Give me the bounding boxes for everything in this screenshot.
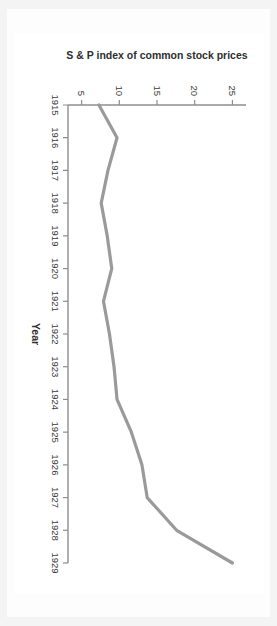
x-tick-label: 1922	[50, 323, 61, 344]
line-chart-svg: 1915191619171918191919201921192219231924…	[14, 33, 264, 593]
x-tick-label: 1928	[50, 520, 61, 541]
y-tick-label: 5	[76, 91, 87, 96]
x-tick-label: 1918	[50, 193, 61, 214]
y-tick-label: 10	[113, 85, 124, 96]
x-tick-label: 1915	[50, 94, 61, 115]
x-tick-label: 1920	[50, 258, 61, 279]
y-tick-label: 15	[151, 85, 162, 96]
y-tick-label: 20	[189, 85, 200, 96]
x-tick-label: 1926	[50, 454, 61, 475]
x-tick-label: 1925	[50, 422, 61, 443]
x-axis-tick-labels: 1915191619171918191919201921192219231924…	[50, 94, 61, 573]
x-tick-label: 1929	[50, 552, 61, 573]
x-tick-label: 1923	[50, 356, 61, 377]
x-tick-label: 1917	[50, 160, 61, 181]
chart-canvas: 1915191619171918191919201921192219231924…	[14, 33, 264, 593]
x-tick-label: 1916	[50, 127, 61, 148]
x-tick-label: 1924	[50, 389, 61, 410]
y-tick-label: 25	[227, 85, 238, 96]
y-axis-title: S & P index of common stock prices	[66, 49, 247, 61]
x-tick-label: 1919	[50, 225, 61, 246]
x-tick-label: 1921	[50, 291, 61, 312]
plot-background	[14, 33, 264, 593]
figure-container: 1915191619171918191919201921192219231924…	[0, 0, 277, 626]
x-axis-title: Year	[30, 323, 42, 345]
x-tick-label: 1927	[50, 487, 61, 508]
